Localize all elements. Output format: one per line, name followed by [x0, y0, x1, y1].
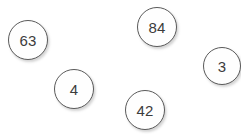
graph-node[interactable]: 4	[54, 69, 94, 109]
node-label: 42	[136, 103, 153, 118]
graph-node[interactable]: 63	[8, 20, 48, 60]
graph-node[interactable]: 84	[137, 7, 177, 47]
graph-node[interactable]: 42	[125, 90, 165, 130]
graph-node[interactable]: 3	[203, 47, 241, 85]
node-canvas[interactable]: 63 84 3 4 42	[0, 0, 241, 134]
node-label: 63	[19, 33, 36, 48]
node-label: 4	[70, 82, 79, 97]
node-label: 84	[148, 20, 165, 35]
node-label: 3	[218, 59, 227, 74]
